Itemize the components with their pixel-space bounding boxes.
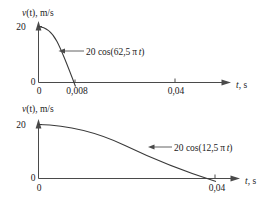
bottom-x-tick-label-0: 0 [37,183,42,193]
bottom-y-axis-label-arg: (t) [26,104,35,115]
top-y-tick-label-0: 0 [31,77,36,87]
bottom-y-axis-label: v(t), m/s [22,104,54,115]
top-y-axis-arrowhead [36,21,42,31]
top-y-axis-label-arg: (t) [26,8,35,19]
top-x-axis-label-unit: , s [239,80,248,90]
top-curve-annotation: 20 cos(62,5πt) [86,47,144,58]
bottom-y-tick-label-20: 20 [16,120,26,130]
bottom-curve-annotation: 20 cos(12,5πt) [174,143,232,154]
top-y-tick-label-20: 20 [16,22,26,32]
top-x-tick-label-0008: 0,008 [66,86,88,96]
bottom-y-axis-arrowhead [36,119,42,129]
top-y-axis-label: v(t), m/s [22,8,54,19]
bottom-annotation-pi: π [220,143,225,153]
top-y-axis-label-unit: , m/s [35,8,54,18]
top-x-tick-label-004: 0,04 [168,86,185,96]
bottom-annotation-close: ) [229,143,232,154]
bottom-x-axis-arrowhead [231,176,241,182]
top-x-tick-label-0: 0 [37,86,42,96]
bottom-x-axis-label: t, s [245,176,256,186]
chart-top: v(t), m/s 20 0 0 0,008 0,04 t, s 20 cos(… [16,8,247,96]
figure-svg: v(t), m/s 20 0 0 0,008 0,04 t, s 20 cos(… [0,0,272,197]
top-x-axis-label: t, s [236,80,247,90]
velocity-waveform-figure: v(t), m/s 20 0 0 0,008 0,04 t, s 20 cos(… [0,0,272,197]
top-x-axis-arrowhead [222,80,232,86]
bottom-x-tick-label-004: 0,04 [209,183,226,193]
bottom-x-axis-label-unit: , s [248,176,257,186]
top-curve-cosine [39,27,76,87]
top-annotation-amplitude: 20 cos(62,5 [86,47,131,58]
bottom-y-axis-label-unit: , m/s [35,104,54,114]
bottom-annotation-arrowhead [148,144,155,149]
top-annotation-pi: π [132,47,137,57]
chart-bottom: v(t), m/s 20 0 0 0,04 t, s 20 cos(12,5πt… [16,104,256,193]
bottom-annotation-amplitude: 20 cos(12,5 [174,143,219,154]
top-annotation-close: ) [141,47,144,58]
bottom-curve-cosine [39,125,217,182]
bottom-y-tick-label-0: 0 [31,173,36,183]
